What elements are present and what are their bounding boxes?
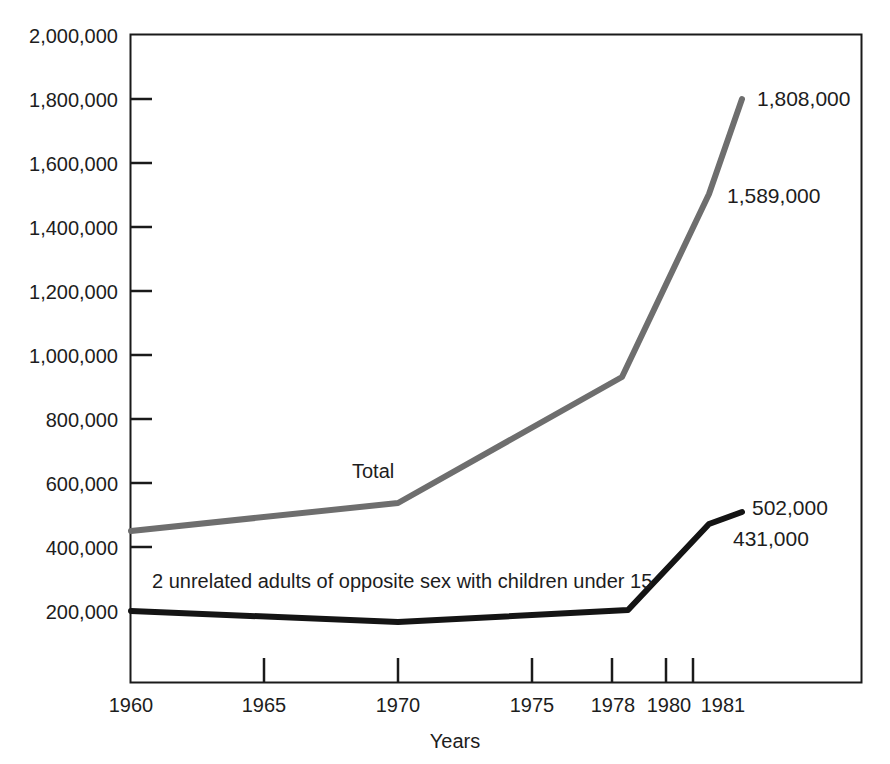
point-label-unrelated-1980: 431,000 <box>733 527 809 550</box>
y-axis-label-2000000: 2,000,000 <box>29 25 118 47</box>
y-axis-label-1800000: 1,800,000 <box>29 89 118 111</box>
x-axis-label-1965: 1965 <box>242 694 287 716</box>
y-axis-label-1600000: 1,600,000 <box>29 153 118 175</box>
chart-container: 2,000,000 1,800,000 1,600,000 1,400,000 … <box>0 0 890 764</box>
series-label-unrelated-adults: 2 unrelated adults of opposite sex with … <box>152 570 652 592</box>
x-axis-label-1975: 1975 <box>510 694 555 716</box>
line-chart: 2,000,000 1,800,000 1,600,000 1,400,000 … <box>0 0 890 764</box>
x-axis-label-1981: 1981 <box>701 694 746 716</box>
y-axis-label-400000: 400,000 <box>46 537 118 559</box>
x-axis-label-1960: 1960 <box>109 694 154 716</box>
y-axis-label-1400000: 1,400,000 <box>29 217 118 239</box>
y-axis-label-600000: 600,000 <box>46 473 118 495</box>
point-label-total-1980: 1,589,000 <box>727 184 820 207</box>
point-label-total-1981: 1,808,000 <box>757 87 850 110</box>
chart-background <box>0 0 890 764</box>
x-axis-title: Years <box>430 730 480 752</box>
point-label-unrelated-1981: 502,000 <box>752 496 828 519</box>
series-label-total: Total <box>352 460 394 482</box>
y-axis-label-200000: 200,000 <box>46 601 118 623</box>
x-axis-label-1980: 1980 <box>647 694 692 716</box>
y-axis-label-1200000: 1,200,000 <box>29 281 118 303</box>
y-axis-label-1000000: 1,000,000 <box>29 345 118 367</box>
x-axis-label-1970: 1970 <box>376 694 421 716</box>
x-axis-label-1978: 1978 <box>591 694 636 716</box>
y-axis-label-800000: 800,000 <box>46 409 118 431</box>
